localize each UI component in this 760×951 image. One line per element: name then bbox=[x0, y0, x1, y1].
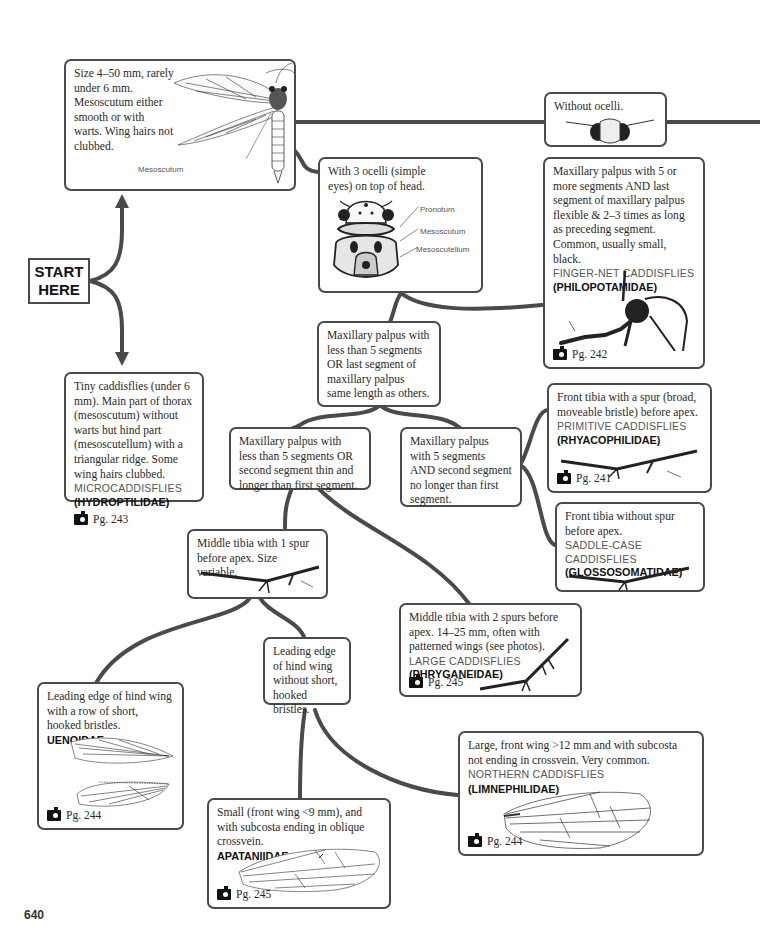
camera-icon bbox=[409, 677, 423, 688]
camera-icon bbox=[553, 349, 567, 360]
mesoscutum-label: Mesoscutum bbox=[138, 163, 183, 178]
node-apataniidae: Small (front wing <9 mm), and with subco… bbox=[207, 798, 391, 909]
middle-tibia-two-spurs-illustration bbox=[476, 635, 576, 693]
page-ref-text: Pg. 245 bbox=[428, 675, 463, 690]
node-second-segment-long-text: Maxillary palpus with less than 5 segmen… bbox=[239, 435, 361, 493]
node-with-ocelli: With 3 ocelli (simple eyes) on top of he… bbox=[318, 157, 483, 293]
page-ref[interactable]: Pg. 245 bbox=[409, 675, 463, 690]
front-and-hind-wing-illustration bbox=[69, 734, 179, 812]
page-ref-text: Pg. 242 bbox=[572, 347, 607, 362]
node-large: Size 4–50 mm, rarely under 6 mm. Mesoscu… bbox=[64, 59, 296, 191]
node-middle-tibia-1-spur: Middle tibia with 1 spur before apex. Si… bbox=[187, 529, 328, 599]
camera-icon bbox=[47, 810, 61, 821]
page-ref[interactable]: Pg. 245 bbox=[217, 887, 271, 902]
description: Leading edge of hind wing with a row of … bbox=[47, 690, 172, 732]
page-ref-text: Pg. 245 bbox=[236, 887, 271, 902]
page-ref[interactable]: Pg. 242 bbox=[553, 347, 607, 362]
adult-caddisfly-dorsal-illustration bbox=[166, 63, 294, 188]
node-without-bristles-text: Leading edge of hind wing without short,… bbox=[273, 645, 341, 718]
front-wing-illustration bbox=[500, 788, 660, 850]
node-hydroptilidae: Tiny caddisflies (under 6 mm). Main part… bbox=[64, 372, 204, 502]
page-ref-text: Pg. 241 bbox=[576, 471, 611, 486]
camera-icon bbox=[74, 514, 88, 525]
camera-icon bbox=[468, 836, 482, 847]
common-name: SADDLE-CASE CADDISFLIES bbox=[565, 539, 695, 566]
node-without-ocelli: Without ocelli. bbox=[544, 92, 667, 147]
node-without-bristles: Leading edge of hind wing without short,… bbox=[263, 637, 351, 705]
node-glossosomatidae-text: Front tibia without spur before apex. bbox=[565, 510, 695, 539]
node-without-ocelli-text: Without ocelli. bbox=[554, 100, 657, 115]
page-ref[interactable]: Pg. 243 bbox=[74, 512, 194, 527]
camera-icon bbox=[557, 473, 571, 484]
node-philopotamidae-text: Maxillary palpus with 5 or more segments… bbox=[553, 165, 695, 267]
node-large-text: Size 4–50 mm, rarely under 6 mm. Mesoscu… bbox=[74, 67, 174, 155]
mesoscutum-label: Mesoscutum bbox=[420, 225, 465, 240]
page-ref-text: Pg. 244 bbox=[66, 808, 101, 823]
head-without-ocelli-illustration bbox=[566, 114, 654, 144]
page-ref[interactable]: Pg. 241 bbox=[557, 471, 611, 486]
node-second-segment-short: Maxillary palpus with 5 segments AND sec… bbox=[400, 427, 522, 507]
maxillary-palpus-head-illustration bbox=[555, 271, 695, 351]
middle-tibia-one-spur-illustration bbox=[197, 563, 322, 595]
node-limnephilidae: Large, front wing >12 mm and with subcos… bbox=[458, 731, 704, 856]
front-tibia-without-spur-illustration bbox=[565, 566, 695, 590]
node-philopotamidae: Maxillary palpus with 5 or more segments… bbox=[543, 157, 705, 369]
page-ref[interactable]: Pg. 244 bbox=[47, 808, 101, 823]
node-rhyacophilidae: Front tibia with a spur (broad, moveable… bbox=[547, 383, 712, 493]
node-rhyacophilidae-text: Front tibia with a spur (broad, moveable… bbox=[557, 391, 702, 420]
node-palpus-less-than-5: Maxillary palpus with less than 5 segmen… bbox=[317, 321, 441, 407]
node-with-ocelli-text: With 3 ocelli (simple eyes) on top of he… bbox=[328, 165, 438, 194]
page-ref[interactable]: Pg. 244 bbox=[468, 834, 522, 849]
common-name: NORTHERN CADDISFLIES bbox=[468, 768, 604, 780]
family-name: (RHYACOPHILIDAE) bbox=[557, 434, 702, 448]
node-uenoidae: Leading edge of hind wing with a row of … bbox=[37, 682, 184, 830]
node-limnephilidae-text: Large, front wing >12 mm and with subcos… bbox=[468, 739, 694, 768]
start-line1: START bbox=[30, 263, 88, 281]
page-number: 640 bbox=[24, 908, 44, 922]
common-name: PRIMITIVE CADDISFLIES bbox=[557, 420, 702, 434]
common-name: MICROCADDISFLIES bbox=[74, 482, 194, 496]
page-ref-text: Pg. 244 bbox=[487, 834, 522, 849]
camera-icon bbox=[217, 889, 231, 900]
node-second-segment-short-text: Maxillary palpus with 5 segments AND sec… bbox=[410, 435, 512, 508]
page-ref-text: Pg. 243 bbox=[93, 512, 128, 527]
node-phryganeidae: Middle tibia with 2 spurs before apex. 1… bbox=[399, 603, 582, 697]
pronotum-label: Pronotum bbox=[420, 203, 455, 218]
family-name: (HYDROPTILIDAE) bbox=[74, 496, 194, 510]
mesoscutellum-label: Mesoscutellum bbox=[416, 243, 469, 258]
thorax-with-ocelli-illustration bbox=[326, 195, 406, 287]
start-here-box: START HERE bbox=[28, 258, 90, 304]
node-glossosomatidae: Front tibia without spur before apex. SA… bbox=[555, 502, 705, 592]
label-leader-lines bbox=[398, 201, 418, 271]
node-palpus-less-than-5-text: Maxillary palpus with less than 5 segmen… bbox=[327, 329, 431, 402]
node-hydroptilidae-text: Tiny caddisflies (under 6 mm). Main part… bbox=[74, 380, 194, 482]
node-second-segment-long: Maxillary palpus with less than 5 segmen… bbox=[229, 427, 371, 490]
start-line2: HERE bbox=[30, 281, 88, 299]
